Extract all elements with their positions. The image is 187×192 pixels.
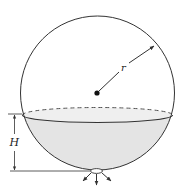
center-point — [94, 90, 99, 95]
height-label: H — [9, 136, 20, 149]
radius-arrow-upper — [129, 46, 154, 63]
outlet-orifice — [91, 169, 103, 174]
liquid-body — [21, 108, 174, 176]
radius-arrow — [99, 72, 119, 91]
outflow-arrows — [83, 173, 111, 185]
tank-diagram: r H — [0, 0, 187, 192]
radius-label: r — [121, 62, 127, 73]
